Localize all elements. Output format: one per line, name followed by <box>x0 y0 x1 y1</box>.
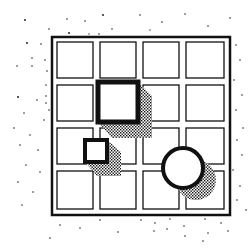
large-square <box>98 82 152 138</box>
